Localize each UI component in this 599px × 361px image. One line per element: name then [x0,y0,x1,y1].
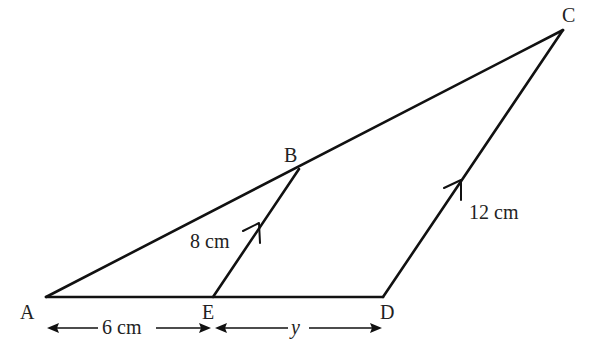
point-label-B: B [284,144,297,166]
point-label-A: A [20,301,35,323]
length-label-BE: 8 cm [190,230,230,252]
length-label-CD: 12 cm [469,201,519,223]
segment-AC [46,30,563,297]
length-label-ED: y [289,316,300,339]
similar-triangles-diagram: A B C D E 8 cm 12 cm 6 cm y [0,0,599,361]
length-label-AE: 6 cm [102,316,142,338]
point-label-D: D [380,301,394,323]
point-label-E: E [202,301,214,323]
point-label-C: C [562,4,575,26]
segment-DC [383,30,563,297]
